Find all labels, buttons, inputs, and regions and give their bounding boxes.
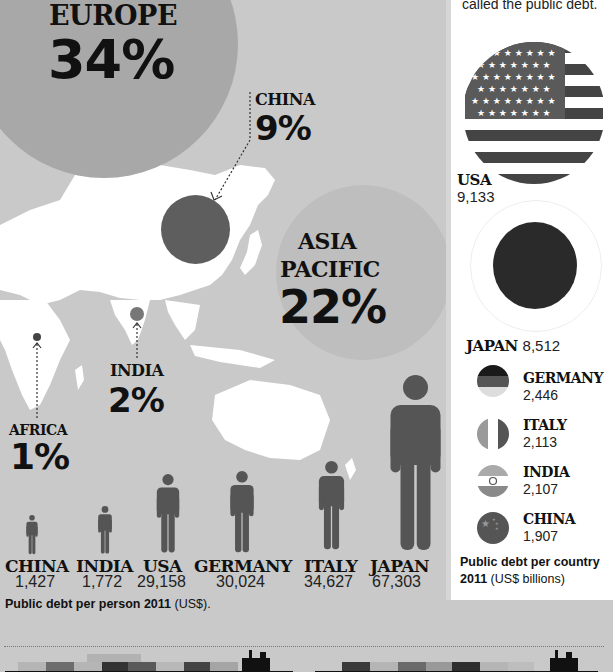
india-bubble bbox=[130, 307, 144, 321]
person-value-india: 1,772 bbox=[82, 573, 122, 591]
svg-text:★ ★ ★ ★ ★ ★ ★: ★ ★ ★ ★ ★ ★ ★ bbox=[477, 84, 551, 94]
china-map-value: 9% bbox=[255, 111, 311, 145]
svg-text:★ ★ ★ ★ ★ ★ ★ ★: ★ ★ ★ ★ ★ ★ ★ ★ bbox=[471, 96, 556, 106]
italy-flag-icon bbox=[477, 418, 509, 450]
asia-label: ASIA bbox=[298, 228, 356, 254]
china-map-label: CHINA bbox=[255, 90, 315, 109]
panel-intro: called the public debt. bbox=[462, 0, 597, 12]
person-icon-italy bbox=[319, 461, 344, 549]
svg-text:★: ★ bbox=[481, 518, 490, 529]
china-pointer-arrow bbox=[205, 90, 255, 205]
panel-caption: Public debt per country 2011 (US$ billio… bbox=[460, 554, 600, 588]
person-icon-india bbox=[98, 506, 112, 554]
svg-text:★ ★ ★ ★ ★ ★ ★: ★ ★ ★ ★ ★ ★ ★ bbox=[477, 60, 551, 70]
svg-text:★ ★ ★ ★ ★ ★ ★ ★: ★ ★ ★ ★ ★ ★ ★ ★ bbox=[471, 72, 556, 82]
germany-country-value: 2,446 bbox=[523, 387, 558, 403]
japan-country-line: JAPAN 8,512 bbox=[466, 337, 560, 355]
asia-pacific-value: 22% bbox=[279, 284, 386, 330]
china-flag-icon: ★ ★ ★ ★ bbox=[477, 512, 509, 544]
europe-label: EUROPE bbox=[49, 0, 177, 31]
person-value-usa: 29,158 bbox=[137, 573, 186, 591]
japan-flag-icon bbox=[493, 222, 577, 309]
section-divider bbox=[4, 646, 604, 647]
usa-country-value: 9,133 bbox=[457, 188, 495, 205]
china-country-label: CHINA bbox=[523, 511, 575, 527]
person-value-china: 1,427 bbox=[15, 573, 55, 591]
pacific-label: PACIFIC bbox=[280, 256, 380, 282]
germany-flag-icon bbox=[477, 365, 509, 397]
person-value-japan: 67,303 bbox=[372, 573, 421, 591]
italy-country-value: 2,113 bbox=[523, 434, 557, 450]
india-country-label: INDIA bbox=[523, 464, 569, 480]
china-country-value: 1,907 bbox=[523, 528, 558, 544]
italy-country-label: ITALY bbox=[523, 417, 567, 433]
india-pointer-arrow bbox=[130, 320, 144, 360]
india-country-value: 2,107 bbox=[523, 481, 558, 497]
ship-right-icon bbox=[315, 650, 598, 672]
person-value-italy: 34,627 bbox=[304, 573, 353, 591]
person-value-germany: 30,024 bbox=[216, 573, 265, 591]
usa-flag-icon: ★ ★ ★ ★ ★ ★ ★ ★ ★ ★ ★ ★ ★ ★ ★ ★ ★ ★ ★ ★ … bbox=[465, 42, 603, 185]
svg-text:★: ★ bbox=[495, 526, 499, 531]
germany-country-label: GERMANY bbox=[523, 370, 603, 386]
europe-value: 34% bbox=[48, 33, 174, 87]
people-caption: Public debt per person 2011 (US$). bbox=[5, 597, 211, 611]
svg-text:★ ★ ★ ★ ★ ★ ★: ★ ★ ★ ★ ★ ★ ★ bbox=[477, 108, 551, 118]
china-bubble bbox=[161, 195, 230, 264]
person-icon-japan bbox=[391, 375, 441, 550]
people-pictograph bbox=[0, 370, 446, 555]
container-ships-strip bbox=[0, 650, 613, 672]
usa-country-label: USA bbox=[457, 171, 491, 189]
india-flag-icon bbox=[477, 465, 509, 497]
person-icon-usa bbox=[157, 474, 179, 552]
person-icon-china bbox=[26, 515, 37, 554]
svg-text:★ ★ ★ ★ ★ ★ ★ ★: ★ ★ ★ ★ ★ ★ ★ ★ bbox=[471, 48, 556, 58]
ship-left-icon bbox=[5, 650, 293, 672]
person-icon-germany bbox=[230, 471, 253, 552]
